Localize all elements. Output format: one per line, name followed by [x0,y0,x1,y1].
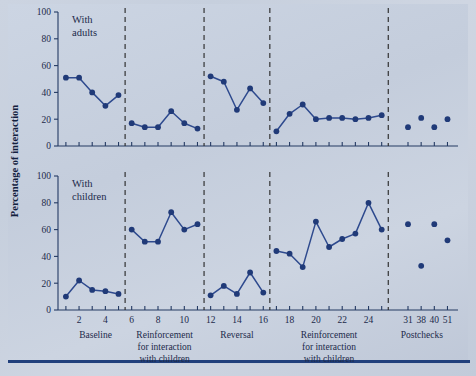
x-tick-label: 22 [337,315,347,325]
phase-label-line1: Reinforcement [136,330,193,340]
data-point [247,270,253,276]
data-point [274,128,280,134]
data-point [168,108,174,114]
x-tick-label: 40 [430,315,440,325]
phase-label-line1: Postchecks [401,330,444,340]
data-point [300,264,306,270]
data-point [313,116,319,122]
data-point [247,86,253,92]
data-point [300,102,306,108]
chart-svg: Percentage of interaction020406080100Wit… [0,0,476,376]
data-point [155,124,161,130]
data-point [89,287,95,293]
data-point [181,227,187,233]
panel-title-line2: adults [72,27,97,38]
phase-label-line1: Reversal [220,330,254,340]
data-point [103,103,109,109]
y-tick-label: 20 [42,115,52,125]
series-line-reversal [211,76,264,110]
data-point [142,239,148,245]
series-line-reinforcement-for-interaction-with-children [132,111,198,128]
y-tick-label: 100 [37,7,52,17]
data-point [339,236,345,242]
panel-title-line1: With [72,178,93,189]
y-axis-label: Percentage of interaction [9,105,20,218]
data-point [195,221,201,227]
y-tick-label: 100 [37,171,52,181]
data-point [353,116,359,122]
data-point [63,294,69,300]
data-point [89,90,95,96]
data-point [353,231,359,237]
x-tick-label: 20 [311,315,321,325]
data-point [431,124,437,130]
data-point [379,227,385,233]
data-point [76,75,82,81]
x-tick-label: 6 [129,315,134,325]
x-tick-label: 31 [403,315,413,325]
data-point [234,107,240,113]
data-point [181,120,187,126]
data-point [195,126,201,132]
series-line-reinforcement-for-interaction-with-children [132,212,198,242]
y-tick-label: 60 [42,225,52,235]
data-point [129,227,135,233]
phase-label-line3: with children [304,354,355,364]
y-tick-label: 40 [42,252,52,262]
data-point [339,115,345,121]
data-point [221,79,227,85]
data-point [445,237,451,243]
y-tick-label: 80 [42,198,52,208]
y-tick-label: 20 [42,279,52,289]
data-point [63,75,69,81]
data-point [326,244,332,250]
x-tick-label: 8 [156,315,161,325]
data-point [155,239,161,245]
y-tick-label: 0 [46,305,51,315]
data-point [129,120,135,126]
series-line-reinforcement-for-interaction-with-children [276,203,381,267]
data-point [326,115,332,121]
data-point [103,288,109,294]
x-tick-label: 12 [206,315,216,325]
y-tick-label: 80 [42,34,52,44]
phase-label-line1: Baseline [79,330,112,340]
x-tick-label: 16 [259,315,269,325]
data-point [366,115,372,121]
y-tick-label: 40 [42,88,52,98]
y-tick-label: 0 [46,141,51,151]
data-point [142,124,148,130]
x-tick-label: 10 [180,315,190,325]
x-tick-label: 24 [364,315,374,325]
data-point [116,92,122,98]
data-point [274,248,280,254]
data-point [287,251,293,257]
phase-label-line2: for interaction [302,342,356,352]
x-tick-label: 2 [77,315,82,325]
data-point [379,112,385,118]
data-point [168,209,174,215]
panel-title-line1: With [72,14,93,25]
data-point [405,124,411,130]
x-tick-label: 38 [416,315,426,325]
data-point [234,291,240,297]
data-point [431,221,437,227]
data-point [445,116,451,122]
data-point [208,73,214,79]
figure-container: Percentage of interaction020406080100Wit… [0,0,476,376]
x-tick-label: 18 [285,315,295,325]
phase-label-line1: Reinforcement [301,330,358,340]
data-point [116,291,122,297]
phase-label-line3: with children [139,354,190,364]
phase-label-line2: for interaction [138,342,192,352]
data-point [418,115,424,121]
x-tick-label: 4 [103,315,108,325]
data-point [208,292,214,298]
x-tick-label: 14 [232,315,242,325]
data-point [260,100,266,106]
x-tick-label: 51 [443,315,453,325]
y-tick-label: 60 [42,61,52,71]
data-point [366,200,372,206]
data-point [405,221,411,227]
data-point [221,283,227,289]
